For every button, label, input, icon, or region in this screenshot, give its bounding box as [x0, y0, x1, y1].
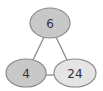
node-top: 6 — [30, 8, 70, 38]
node-bottom-right-label: 24 — [67, 67, 82, 81]
node-bottom-left: 4 — [6, 59, 46, 87]
edge-top-bottom-right — [56, 37, 67, 60]
triangle-diagram: 6 4 24 — [0, 0, 103, 91]
node-bottom-left-label: 4 — [22, 67, 30, 81]
edge-top-bottom-left — [33, 37, 44, 60]
node-top-label: 6 — [46, 17, 54, 31]
node-bottom-right: 24 — [54, 59, 96, 87]
